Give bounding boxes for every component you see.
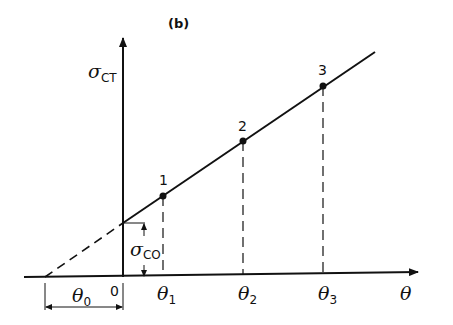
panel-label: (b) <box>168 16 189 31</box>
data-point-1 <box>160 193 167 200</box>
origin-label: 0 <box>110 283 119 299</box>
theta1-label: θ1 <box>157 282 176 307</box>
point-label-1: 1 <box>159 172 168 188</box>
theta2-label: θ2 <box>238 282 257 307</box>
theta0-label: θ0 <box>72 284 91 309</box>
point-label-3: 3 <box>318 62 327 78</box>
extrapolation-dashed-line <box>45 223 123 277</box>
data-point-3 <box>320 83 327 90</box>
x-axis-label: θ <box>400 282 412 304</box>
x-axis <box>24 272 418 277</box>
point-label-2: 2 <box>238 118 247 134</box>
theta3-label: θ3 <box>318 282 337 307</box>
diagram-canvas: (b) σCT σCO 0 θ0 θ1 θ2 θ3 θ 1 2 3 <box>0 0 453 325</box>
intercept-label: σCO <box>130 238 161 262</box>
data-point-2 <box>240 138 247 145</box>
y-axis-label: σCT <box>88 60 117 85</box>
